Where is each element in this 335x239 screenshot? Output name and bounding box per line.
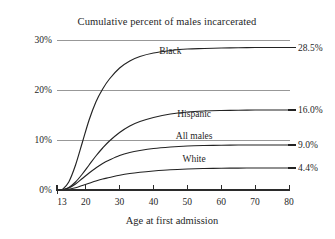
end-value-white: 4.4% xyxy=(298,163,318,173)
series-label-white: White xyxy=(183,154,206,164)
end-value-hispanic: 16.0% xyxy=(298,105,323,115)
y-tick-label-20pct: 20% xyxy=(35,85,53,95)
x-tick-label-13: 13 xyxy=(57,197,67,207)
y-tick-label-30pct: 30% xyxy=(35,35,53,45)
x-tick-label-60: 60 xyxy=(216,197,226,207)
end-value-black: 28.5% xyxy=(298,43,323,53)
curve-black xyxy=(62,47,289,190)
y-tick-label-0pct: 0% xyxy=(39,185,52,195)
x-tick-label-30: 30 xyxy=(115,197,125,207)
x-tick-label-40: 40 xyxy=(149,197,159,207)
curve-hispanic xyxy=(62,110,289,190)
y-axis-tick-labels: 0%10%20%30% xyxy=(35,35,57,195)
chart-container: Cumulative percent of males incarcerated… xyxy=(0,0,335,239)
x-tick-label-70: 70 xyxy=(250,197,260,207)
x-axis xyxy=(57,185,290,194)
x-tick-label-80: 80 xyxy=(284,197,294,207)
series-end-value-labels: 28.5%16.0%9.0%4.4% xyxy=(298,43,323,174)
x-tick-label-50: 50 xyxy=(183,197,193,207)
cumulative-incarceration-line-chart: Cumulative percent of males incarcerated… xyxy=(0,0,335,239)
series-label-black: Black xyxy=(159,46,181,56)
value-leader-lines xyxy=(288,48,296,169)
data-series-curves xyxy=(62,47,289,190)
series-label-hispanic: Hispanic xyxy=(177,109,211,119)
chart-title: Cumulative percent of males incarcerated xyxy=(78,16,258,27)
series-label-all-males: All males xyxy=(176,131,213,141)
x-axis-label: Age at first admission xyxy=(126,215,219,226)
end-value-all-males: 9.0% xyxy=(298,140,318,150)
x-axis-tick-labels: 1320304050607080 xyxy=(57,197,294,207)
y-tick-label-10pct: 10% xyxy=(35,135,53,145)
x-tick-label-20: 20 xyxy=(81,197,91,207)
